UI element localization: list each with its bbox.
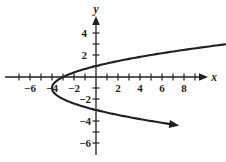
- x-axis-arrow-icon: [199, 73, 208, 81]
- parabola-lower-arrow-icon: [169, 120, 179, 128]
- x-tick-label--6: −6: [24, 82, 36, 94]
- y-axis-label: y: [91, 3, 99, 16]
- x-tick-label-2: 2: [115, 82, 121, 94]
- x-tick-label-8: 8: [181, 82, 187, 94]
- y-tick-label--2: −2: [79, 93, 91, 105]
- parabola-upper-branch: [52, 40, 226, 88]
- y-tick-label--4: −4: [79, 115, 91, 127]
- y-axis: 4 2 −2 −4 −6 y: [79, 3, 100, 155]
- coordinate-plane: −6 −4 −2 2 4 6 8 x: [0, 0, 226, 162]
- x-axis-label: x: [210, 71, 217, 83]
- y-tick-label-4: 4: [82, 27, 88, 39]
- graph-figure: −6 −4 −2 2 4 6 8 x: [0, 0, 226, 162]
- x-tick-label-6: 6: [159, 82, 165, 94]
- x-tick-label-4: 4: [137, 82, 143, 94]
- y-tick-label--6: −6: [79, 137, 91, 149]
- y-axis-arrow-icon: [92, 16, 100, 25]
- y-tick-label-2: 2: [82, 49, 88, 61]
- x-axis: −6 −4 −2 2 4 6 8 x: [5, 71, 217, 94]
